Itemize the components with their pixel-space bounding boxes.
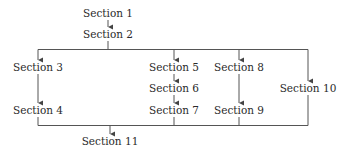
node-section-2: Section 2 [83,29,133,40]
node-section-4: Section 4 [13,105,63,116]
connector-lines [0,0,346,152]
node-section-9: Section 9 [214,105,264,116]
section-flow-diagram: Section 1 Section 2 Section 3 Section 4 … [0,0,346,152]
node-section-3: Section 3 [13,62,63,73]
node-section-8: Section 8 [214,62,264,73]
node-section-1: Section 1 [83,8,133,19]
node-section-7: Section 7 [149,105,199,116]
node-section-5: Section 5 [149,62,199,73]
node-section-6: Section 6 [149,83,199,94]
node-section-10: Section 10 [280,83,337,94]
node-section-11: Section 11 [82,136,139,147]
